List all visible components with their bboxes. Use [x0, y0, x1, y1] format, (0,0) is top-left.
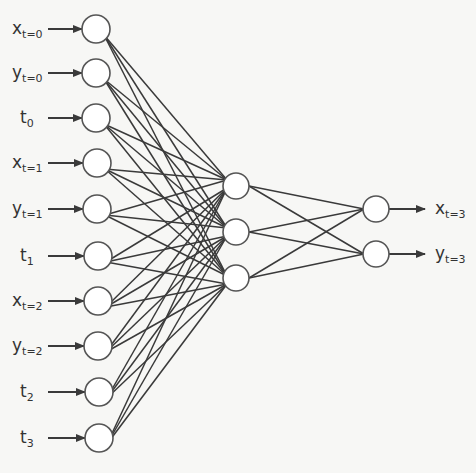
input-node-7 — [84, 332, 112, 360]
edge-hidden-1-output-0 — [249, 209, 364, 232]
input-label-3: xt=1 — [12, 152, 43, 175]
input-node-4 — [83, 195, 111, 223]
output-node-0 — [363, 196, 389, 222]
input-label-1: yt=0 — [12, 62, 43, 85]
input-node-8 — [85, 378, 113, 406]
edge-input-8-hidden-0 — [107, 188, 227, 398]
edge-input-1-hidden-0 — [104, 79, 227, 180]
input-label-2: t0 — [20, 107, 34, 130]
input-label-8: t2 — [20, 381, 34, 404]
input-label-6: xt=2 — [12, 290, 43, 313]
edge-input-7-hidden-0 — [106, 188, 227, 352]
hidden-node-1 — [223, 219, 249, 245]
input-node-9 — [85, 424, 113, 452]
output-node-1 — [363, 241, 389, 267]
neural-network-diagram: xt=0yt=0t0xt=1yt=1t1xt=2yt=2t2t3xt=3yt=3 — [0, 0, 476, 473]
input-node-0 — [82, 15, 110, 43]
input-label-5: t1 — [20, 245, 34, 268]
input-node-2 — [82, 104, 110, 132]
network-svg: xt=0yt=0t0xt=1yt=1t1xt=2yt=2t2t3xt=3yt=3 — [0, 0, 476, 473]
hidden-node-2 — [223, 265, 249, 291]
hidden-node-0 — [223, 173, 249, 199]
edge-input-9-hidden-1 — [107, 236, 227, 444]
edge-hidden-2-output-1 — [249, 254, 364, 278]
input-node-3 — [83, 149, 111, 177]
input-label-9: t3 — [20, 427, 34, 450]
edge-hidden-0-output-0 — [249, 186, 364, 209]
output-label-1: yt=3 — [435, 243, 466, 266]
edge-input-9-hidden-0 — [107, 188, 227, 444]
input-label-7: yt=2 — [12, 335, 43, 358]
edge-input-5-hidden-2 — [106, 262, 227, 284]
input-node-6 — [84, 287, 112, 315]
edge-input-5-hidden-1 — [106, 236, 227, 262]
output-label-0: xt=3 — [435, 198, 466, 221]
input-node-1 — [82, 59, 110, 87]
input-label-0: xt=0 — [12, 18, 43, 41]
edge-input-9-hidden-2 — [107, 284, 227, 444]
input-node-5 — [84, 242, 112, 270]
input-label-4: yt=1 — [12, 198, 43, 221]
